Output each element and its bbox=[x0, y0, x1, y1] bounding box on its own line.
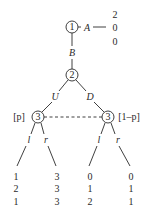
edge-left-r-bottom bbox=[48, 146, 56, 166]
node-3-left-label: 3 bbox=[36, 112, 41, 122]
payoff-Dl-player3: 2 bbox=[88, 197, 93, 207]
action-A-label: A bbox=[84, 23, 90, 33]
payoff-Ur-player3: 3 bbox=[55, 197, 60, 207]
node-1-label: 1 bbox=[70, 22, 75, 32]
payoff-A-player3: 0 bbox=[113, 37, 118, 47]
action-D-label: D bbox=[86, 92, 93, 102]
node-3-right-label: 3 bbox=[106, 112, 111, 122]
edge-left-l-top bbox=[31, 123, 35, 134]
action-r-left-label: r bbox=[44, 135, 48, 145]
edge-U-top bbox=[59, 80, 68, 91]
belief-p-label: [p] bbox=[13, 112, 25, 122]
edge-left-l-bottom bbox=[17, 146, 26, 166]
action-r-right-label: r bbox=[116, 135, 120, 145]
payoff-Ul-player3: 1 bbox=[14, 197, 19, 207]
edge-right-l-top bbox=[101, 123, 105, 134]
payoff-Ur-player2: 3 bbox=[55, 184, 60, 194]
edge-left-r-top bbox=[41, 123, 44, 134]
payoff-Dl-player2: 1 bbox=[88, 184, 93, 194]
payoff-Ul-player2: 2 bbox=[14, 184, 19, 194]
edge-right-r-bottom bbox=[119, 146, 130, 166]
edge-D-top bbox=[76, 80, 86, 91]
action-U-label: U bbox=[51, 92, 58, 102]
payoff-Dl-player1: 0 bbox=[88, 172, 93, 182]
action-B-label: B bbox=[69, 48, 75, 58]
payoff-A-player1: 2 bbox=[113, 10, 118, 20]
action-l-left-label: l bbox=[28, 135, 31, 145]
game-tree-diagram: 1 2 3 3 [p] [1–p] A B U D l r l r 2 0 0 … bbox=[0, 0, 150, 219]
payoff-Ur-player1: 3 bbox=[55, 172, 60, 182]
payoff-Dr-player2: 1 bbox=[129, 184, 134, 194]
payoff-A-player2: 0 bbox=[113, 23, 118, 33]
edge-right-r-top bbox=[111, 123, 115, 134]
action-l-right-label: l bbox=[98, 135, 101, 145]
edge-U-bottom bbox=[42, 102, 52, 112]
edge-D-bottom bbox=[94, 102, 104, 112]
belief-1-minus-p-label: [1–p] bbox=[118, 112, 140, 122]
node-2-label: 2 bbox=[70, 70, 75, 80]
edge-right-l-bottom bbox=[89, 146, 97, 166]
payoff-Dr-player1: 0 bbox=[129, 172, 134, 182]
tree-edges bbox=[0, 0, 150, 219]
payoff-Ul-player1: 1 bbox=[14, 172, 19, 182]
payoff-Dr-player3: 1 bbox=[129, 197, 134, 207]
